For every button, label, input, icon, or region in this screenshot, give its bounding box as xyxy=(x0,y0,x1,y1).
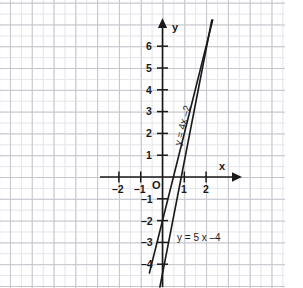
x-tick-label-1: 1 xyxy=(181,184,187,195)
y-tick-label-4: 4 xyxy=(146,85,152,96)
x-tick-label-neg1: –1 xyxy=(134,184,146,195)
x-axis xyxy=(100,172,242,182)
origin-label: O xyxy=(152,180,161,191)
y-tick-label-neg1: –1 xyxy=(141,194,153,205)
y-tick-label-6: 6 xyxy=(146,41,152,52)
y-tick-label-neg2: –2 xyxy=(141,216,153,227)
y-tick-label-neg3: –3 xyxy=(141,237,153,248)
y-axis xyxy=(158,18,167,287)
y-tick-label-neg4: –4 xyxy=(141,259,153,270)
x-tick-label-neg2: –2 xyxy=(112,184,124,195)
y-tick-label-3: 3 xyxy=(146,106,152,117)
y-tick-label-5: 5 xyxy=(146,63,152,74)
series-line-5x-minus-4 xyxy=(160,20,212,287)
series-label-5x-minus-4: y = 5 x –4 xyxy=(177,233,221,243)
x-tick-label-2: 2 xyxy=(203,184,209,195)
y-tick-label-1: 1 xyxy=(146,150,152,161)
y-tick-label-2: 2 xyxy=(146,128,152,139)
y-axis-label: y xyxy=(172,22,178,33)
x-axis-label: x xyxy=(219,161,225,172)
graph-figure: 6 5 4 3 2 1 –1 –2 –3 –4 –2 –1 1 2 O x y … xyxy=(0,0,303,288)
